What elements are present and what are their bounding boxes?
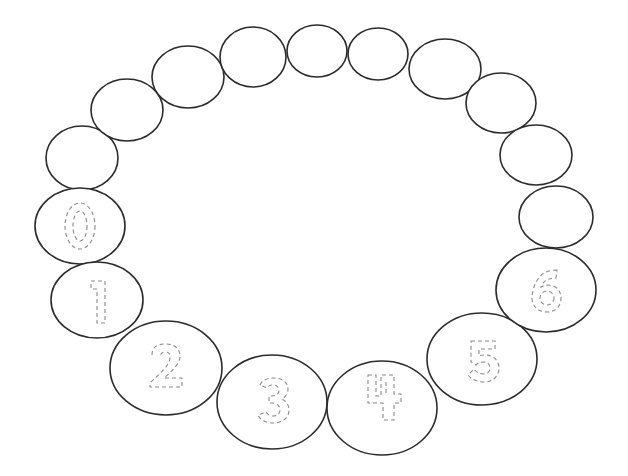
- empty-bead-2[interactable]: [91, 79, 163, 141]
- empty-bead-8[interactable]: [466, 73, 536, 133]
- bead-outline: [35, 188, 125, 264]
- empty-bead-6[interactable]: [348, 28, 408, 80]
- empty-beads: [46, 25, 593, 248]
- digit-label: 6: [0, 0, 9, 3]
- empty-bead-5[interactable]: [287, 25, 347, 77]
- empty-bead-10[interactable]: [519, 186, 593, 248]
- empty-bead-4[interactable]: [220, 27, 286, 87]
- tracing-ring: 0 1 2: [0, 0, 628, 476]
- empty-bead-3[interactable]: [152, 46, 224, 108]
- bead-outline: [217, 355, 327, 449]
- empty-bead-9[interactable]: [500, 125, 572, 185]
- bead-outline: [496, 248, 596, 332]
- bead-outline: [110, 321, 222, 415]
